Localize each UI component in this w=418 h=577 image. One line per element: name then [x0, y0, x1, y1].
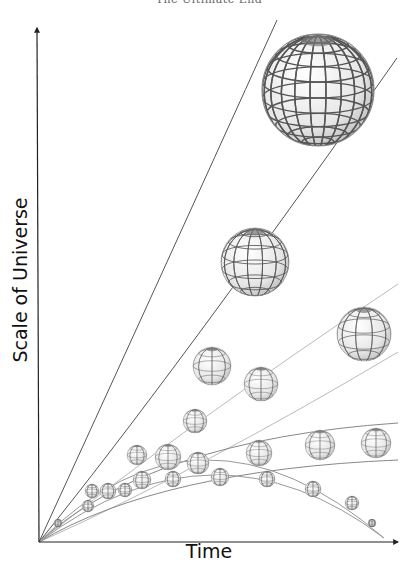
universe-sphere-icon	[211, 468, 229, 486]
y-axis-label-text: Scale of Universe	[9, 197, 31, 362]
universe-sphere-icon	[82, 500, 94, 512]
y-axis-label: Scale of Universe	[2, 180, 38, 380]
universe-sphere-icon	[183, 409, 207, 434]
universe-sphere-icon	[100, 483, 116, 499]
universe-sphere-icon	[337, 307, 391, 362]
universe-sphere-icon	[345, 496, 359, 510]
universe-spheres	[54, 34, 391, 527]
universe-sphere-icon	[187, 452, 209, 474]
universe-sphere-icon	[259, 471, 275, 487]
universe-sphere-icon	[133, 471, 151, 489]
universe-sphere-icon	[54, 519, 62, 527]
universe-sphere-icon	[305, 430, 335, 461]
universe-sphere-icon	[361, 428, 391, 459]
universe-expansion-diagram	[0, 0, 418, 577]
universe-sphere-icon	[305, 481, 321, 497]
x-axis-label: Time	[0, 540, 418, 562]
universe-sphere-icon	[118, 483, 132, 497]
universe-sphere-icon	[244, 367, 278, 402]
universe-sphere-icon	[262, 34, 374, 148]
universe-sphere-icon	[368, 519, 376, 527]
universe-sphere-icon	[193, 347, 231, 386]
universe-sphere-icon	[85, 484, 99, 498]
universe-sphere-icon	[221, 228, 289, 297]
universe-sphere-icon	[246, 440, 272, 467]
universe-sphere-icon	[165, 471, 181, 487]
